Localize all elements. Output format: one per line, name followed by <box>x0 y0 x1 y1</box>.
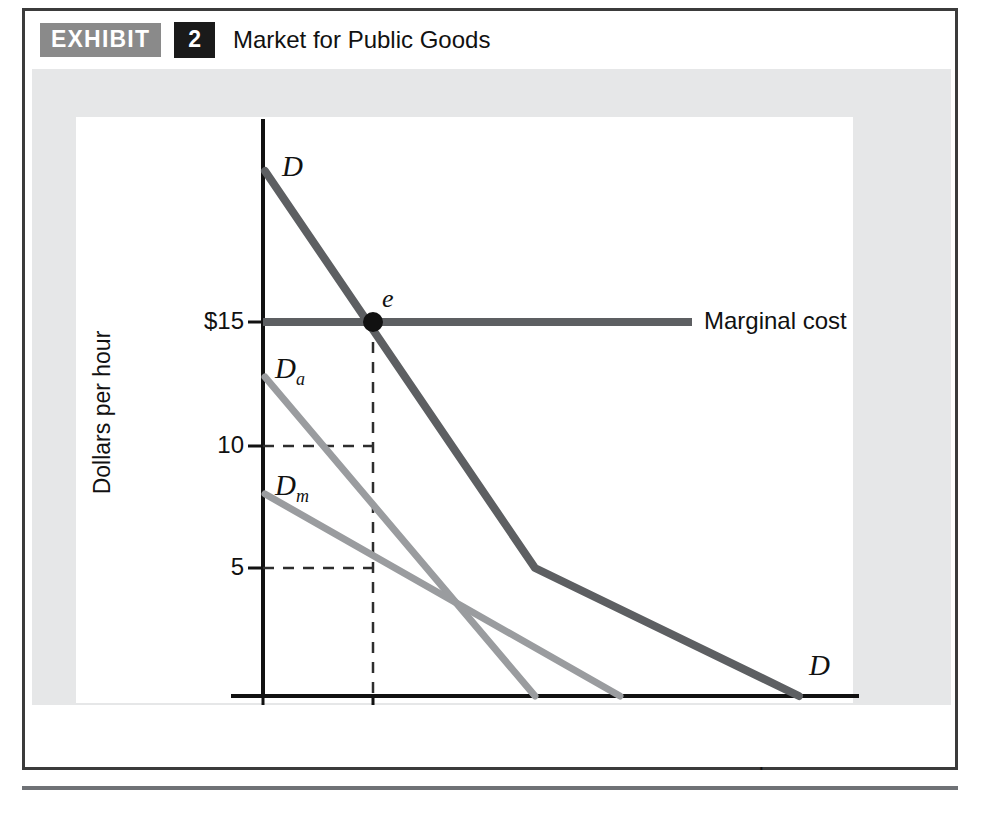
exhibit-badge-label: EXHIBIT <box>40 23 161 57</box>
exhibit-number-badge: 2 <box>174 22 215 58</box>
curve-label-d-bottom: D <box>809 649 830 682</box>
exhibit-bottom-strip <box>32 705 951 767</box>
exhibit-frame: EXHIBIT 2 Market for Public Goods <box>22 8 958 770</box>
exhibit-title: Market for Public Goods <box>233 26 490 54</box>
chart-axes <box>231 119 859 697</box>
curve-label-d-top: D <box>282 150 303 183</box>
y-tick-label-15: $15 <box>152 307 244 335</box>
chart-svg <box>32 69 951 705</box>
exhibit-header: EXHIBIT 2 Market for Public Goods <box>25 11 955 69</box>
y-axis-title: Dollars per hour <box>89 283 116 543</box>
page-bottom-rule <box>22 786 958 790</box>
y-axis-ticks <box>248 322 263 568</box>
curve-label-da: Da <box>275 352 305 390</box>
exhibit-page: EXHIBIT 2 Market for Public Goods <box>0 0 981 828</box>
curve-label-dm-subscript: m <box>296 486 309 506</box>
chart-mat: Dollars per hour $15 10 5 0 2 Hours of m… <box>32 69 951 705</box>
curve-dm <box>265 494 620 696</box>
equilibrium-point-marker <box>363 312 383 332</box>
curve-d-market <box>265 171 799 696</box>
curve-label-dm: Dm <box>275 469 309 507</box>
equilibrium-label-e: e <box>382 284 394 314</box>
curve-label-da-subscript: a <box>296 369 305 389</box>
y-tick-label-10: 10 <box>152 431 244 459</box>
curve-label-dm-letter: D <box>275 469 296 501</box>
y-tick-label-5: 5 <box>152 553 244 581</box>
curve-label-da-letter: D <box>275 352 296 384</box>
curve-da <box>265 377 535 696</box>
marginal-cost-label: Marginal cost <box>704 307 847 335</box>
